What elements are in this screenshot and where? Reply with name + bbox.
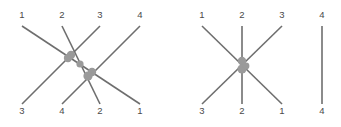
strand-4-to-4 bbox=[62, 26, 140, 104]
crossing-c-dot bbox=[243, 63, 250, 70]
bottom-endpoint-label-3: 2 bbox=[97, 105, 102, 116]
crossing-b-dot bbox=[64, 54, 72, 62]
left-braid-canvas: 12343421 bbox=[0, 0, 170, 127]
bottom-endpoint-label-4: 4 bbox=[319, 105, 324, 116]
bottom-endpoint-label-3: 1 bbox=[279, 105, 284, 116]
top-endpoint-label-2: 2 bbox=[59, 9, 64, 20]
top-endpoint-label-3: 3 bbox=[97, 9, 102, 20]
bottom-endpoint-label-2: 2 bbox=[239, 105, 244, 116]
top-endpoint-label-2: 2 bbox=[239, 9, 244, 20]
bottom-endpoint-label-1: 3 bbox=[19, 105, 24, 116]
braid-figure: 12343421 12343214 bbox=[0, 0, 341, 127]
top-endpoint-label-3: 3 bbox=[279, 9, 284, 20]
top-endpoint-label-4: 4 bbox=[137, 9, 142, 20]
top-endpoint-label-1: 1 bbox=[19, 9, 24, 20]
crossing-e-dot bbox=[83, 71, 92, 80]
crossing-c-dot bbox=[76, 60, 83, 67]
bottom-endpoint-label-1: 3 bbox=[199, 105, 204, 116]
bottom-endpoint-label-4: 1 bbox=[137, 105, 142, 116]
left-braid-diagram: 12343421 bbox=[0, 0, 170, 127]
bottom-endpoint-label-2: 4 bbox=[59, 105, 64, 116]
right-braid-diagram: 12343214 bbox=[170, 0, 341, 127]
right-braid-canvas: 12343214 bbox=[170, 0, 341, 127]
strand-3-to-3 bbox=[22, 26, 100, 104]
top-endpoint-label-1: 1 bbox=[199, 9, 204, 20]
top-endpoint-label-4: 4 bbox=[319, 9, 324, 20]
